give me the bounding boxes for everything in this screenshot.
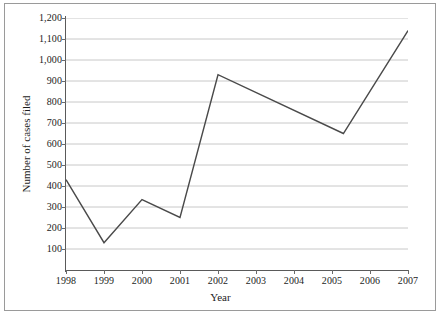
y-tick-label: 1,200 xyxy=(16,13,62,23)
x-tick-label: 2002 xyxy=(198,275,238,286)
x-tick-label: 2001 xyxy=(160,275,200,286)
y-tick-mark xyxy=(62,18,66,19)
x-tick-mark xyxy=(294,270,295,274)
x-tick-mark xyxy=(218,270,219,274)
y-tick-mark xyxy=(62,207,66,208)
x-tick-mark xyxy=(104,270,105,274)
x-axis-tick-labels: 1998199920002001200220032004200520062007 xyxy=(0,275,441,291)
x-tick-mark xyxy=(370,270,371,274)
x-tick-mark xyxy=(408,270,409,274)
y-tick-mark xyxy=(62,228,66,229)
x-tick-label: 1999 xyxy=(84,275,124,286)
chart-figure: 1002003004005006007008009001,0001,1001,2… xyxy=(0,0,441,316)
x-axis-title: Year xyxy=(0,291,441,303)
x-tick-mark xyxy=(66,270,67,274)
y-tick-mark xyxy=(62,123,66,124)
x-tick-label: 2004 xyxy=(274,275,314,286)
x-tick-label: 2005 xyxy=(312,275,352,286)
y-tick-mark xyxy=(62,39,66,40)
data-line-series xyxy=(66,31,408,243)
plot-area xyxy=(66,18,408,270)
x-tick-label: 2000 xyxy=(122,275,162,286)
y-axis-title: Number of cases filed xyxy=(20,54,32,234)
x-tick-mark xyxy=(332,270,333,274)
y-tick-mark xyxy=(62,165,66,166)
plot-svg xyxy=(66,18,408,270)
y-tick-mark xyxy=(62,60,66,61)
y-tick-label: 1,100 xyxy=(16,34,62,44)
y-tick-mark xyxy=(62,249,66,250)
x-tick-mark xyxy=(256,270,257,274)
x-tick-label: 2003 xyxy=(236,275,276,286)
y-tick-mark xyxy=(62,186,66,187)
x-tick-label: 1998 xyxy=(46,275,86,286)
y-tick-label: 100 xyxy=(16,244,62,254)
y-tick-mark xyxy=(62,81,66,82)
x-axis-line xyxy=(65,270,409,271)
y-tick-mark xyxy=(62,144,66,145)
gridlines xyxy=(66,18,408,249)
x-tick-label: 2007 xyxy=(388,275,428,286)
y-tick-mark xyxy=(62,102,66,103)
x-tick-mark xyxy=(142,270,143,274)
x-tick-mark xyxy=(180,270,181,274)
x-tick-label: 2006 xyxy=(350,275,390,286)
